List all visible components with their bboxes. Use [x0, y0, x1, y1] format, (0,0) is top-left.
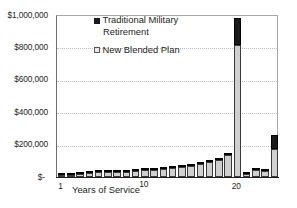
bar-group	[67, 15, 74, 177]
black-square-icon	[94, 18, 100, 24]
y-axis-tick-label: $400,000	[0, 108, 52, 116]
x-axis: Years of Service 11020	[0, 177, 297, 208]
bar-group	[206, 15, 213, 177]
x-axis-tick-label: 20	[232, 182, 241, 190]
bar-blended	[187, 166, 194, 177]
bar-blended	[178, 167, 185, 177]
y-axis-tick-label: $1,000,000	[0, 11, 52, 19]
bar-group	[271, 15, 278, 177]
x-axis-tick-label: 10	[139, 180, 148, 188]
legend-item-blended: New Blended Plan	[94, 44, 180, 56]
bar-blended	[197, 164, 204, 177]
y-axis-tick-label: $200,000	[0, 140, 52, 148]
bar-group	[224, 15, 231, 177]
legend-label-blended: New Blended Plan	[103, 44, 180, 55]
bar-blended	[215, 160, 222, 177]
bar-blended	[206, 162, 213, 177]
bar-blended	[150, 170, 157, 177]
retirement-comparison-chart: $1,000,000$800,000$600,000$400,000$200,0…	[0, 0, 297, 208]
y-axis-tick-label: $800,000	[0, 43, 52, 51]
white-square-icon	[94, 47, 100, 53]
bar-group	[252, 15, 259, 177]
bar-blended	[271, 149, 278, 177]
bar-group	[234, 15, 241, 177]
legend-item-traditional: Traditional Military	[94, 14, 180, 26]
bar-blended	[252, 170, 259, 177]
legend-label-traditional-line1: Traditional Military	[103, 14, 179, 25]
chart-legend: Traditional Military Retirement New Blen…	[94, 14, 180, 56]
bar-blended	[169, 168, 176, 177]
bar-group	[243, 15, 250, 177]
bar-traditional	[271, 135, 278, 149]
bar-group	[86, 15, 93, 177]
bar-blended	[141, 170, 148, 177]
legend-label-traditional-line2-row: Retirement	[94, 26, 180, 38]
bar-group	[58, 15, 65, 177]
bar-group	[187, 15, 194, 177]
x-axis-title: Years of Service	[72, 185, 140, 194]
bar-traditional	[234, 18, 241, 45]
y-axis-tick-label: $600,000	[0, 75, 52, 83]
bar-blended	[160, 169, 167, 177]
bar-group	[215, 15, 222, 177]
legend-label-traditional-line2: Retirement	[103, 26, 149, 37]
bar-group	[261, 15, 268, 177]
bar-blended	[234, 45, 241, 177]
bar-group	[197, 15, 204, 177]
bar-blended	[224, 155, 231, 177]
x-axis-tick-label: 1	[58, 182, 63, 190]
bar-group	[76, 15, 83, 177]
